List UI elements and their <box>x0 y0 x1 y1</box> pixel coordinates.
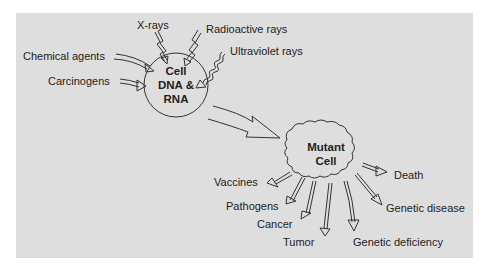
mutant-cell-label: Mutant Cell <box>296 140 356 168</box>
label-tumor: Tumor <box>283 236 314 248</box>
carcinogens-arrow <box>120 79 146 91</box>
cancer-arrow <box>301 181 316 219</box>
label-chemical-agents: Chemical agents <box>23 50 105 62</box>
label-pathogens: Pathogens <box>226 200 279 212</box>
radioactive-rays-arrow <box>184 30 201 66</box>
label-genetic-disease: Genetic disease <box>386 202 465 214</box>
genetic-disease-arrow <box>355 173 382 205</box>
label-vaccines: Vaccines <box>214 176 258 188</box>
genetic-deficiency-arrow <box>344 181 359 231</box>
tumor-arrow <box>320 183 332 236</box>
cell-label-line1: Cell <box>150 64 202 78</box>
label-radioactive-rays: Radioactive rays <box>206 23 287 35</box>
mutation-diagram <box>0 0 489 269</box>
label-x-rays: X-rays <box>137 19 169 31</box>
cell-to-mutant-arrow <box>208 106 280 138</box>
label-genetic-deficiency: Genetic deficiency <box>353 236 443 248</box>
cell-label: Cell DNA & RNA <box>150 64 202 106</box>
label-death: Death <box>394 169 423 181</box>
label-carcinogens: Carcinogens <box>48 75 110 87</box>
mutant-cell-label-line2: Cell <box>296 154 356 168</box>
pathogens-arrow <box>286 177 305 204</box>
label-ultraviolet-rays: Ultraviolet rays <box>230 45 303 57</box>
vaccines-arrow <box>267 172 292 187</box>
label-cancer: Cancer <box>257 218 292 230</box>
death-arrow <box>362 163 387 176</box>
cell-label-line2: DNA & <box>150 78 202 92</box>
mutant-cell-label-line1: Mutant <box>296 140 356 154</box>
cell-label-line3: RNA <box>150 92 202 106</box>
